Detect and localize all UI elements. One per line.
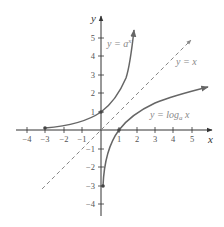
y-axis-label: y xyxy=(90,12,96,24)
y-tick-label: 5 xyxy=(91,33,95,43)
y-tick-label: −4 xyxy=(86,199,96,209)
y-tick-label: −3 xyxy=(86,181,95,191)
exponential-curve-label: y = ax xyxy=(106,37,132,49)
x-tick-label: 3 xyxy=(153,134,157,144)
log-point-marker xyxy=(101,184,105,188)
x-tick-label: −4 xyxy=(22,134,32,144)
x-tick-label: 1 xyxy=(117,134,121,144)
x-tick-label: 5 xyxy=(190,134,194,144)
y-tick-label: −2 xyxy=(86,162,95,172)
x-tick-label: −3 xyxy=(40,134,49,144)
x-axis-label: x xyxy=(207,133,213,145)
x-tick-label: −1 xyxy=(77,134,86,144)
y-tick-label: 3 xyxy=(91,70,95,80)
identity-line-label: y = x xyxy=(175,56,197,67)
y-tick-label: 4 xyxy=(91,51,96,61)
x-tick-label: −2 xyxy=(59,134,68,144)
function-graph: −4 −3 −2 −1 1 2 3 4 5 x 1 2 3 4 5 −1 −2 … xyxy=(0,0,224,227)
exp-point-marker xyxy=(43,126,47,130)
y-tick-label: −1 xyxy=(86,144,95,154)
x-tick-label: 2 xyxy=(135,134,139,144)
log-point-marker xyxy=(117,128,121,132)
exp-point-marker xyxy=(99,110,103,114)
y-axis: 1 2 3 4 5 −1 −2 −3 −4 y xyxy=(86,12,104,216)
x-tick-label: 4 xyxy=(171,134,176,144)
logarithmic-curve-label: y = loga x xyxy=(149,109,190,122)
y-tick-label: 2 xyxy=(91,88,95,98)
